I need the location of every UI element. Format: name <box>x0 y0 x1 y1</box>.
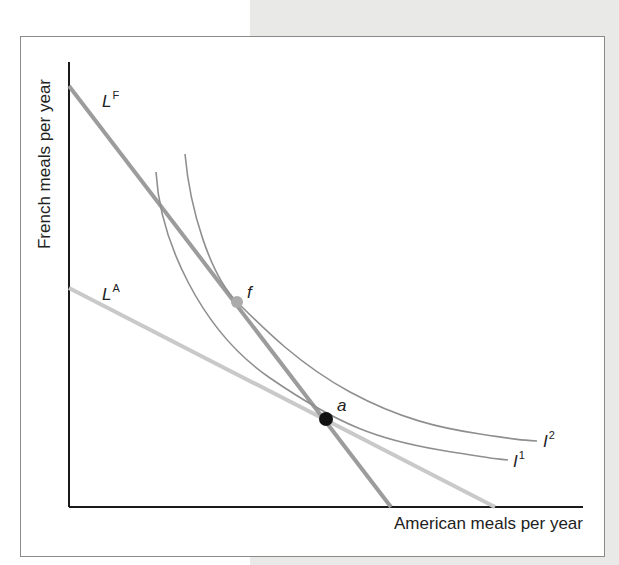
label-point-a: a <box>337 396 346 416</box>
label-i1-main: I <box>513 452 518 471</box>
point-a-marker <box>319 412 333 426</box>
budget-line-la <box>69 288 495 507</box>
x-axis-label: American meals per year <box>394 514 583 534</box>
label-i2-main: I <box>543 432 548 451</box>
label-lf-sup: F <box>112 89 119 101</box>
label-lf-main: L <box>102 92 111 111</box>
label-la: LA <box>102 285 120 305</box>
y-axis-label: French meals per year <box>35 79 55 249</box>
label-la-sup: A <box>112 282 119 294</box>
label-lf: LF <box>102 92 119 112</box>
label-la-main: L <box>102 285 111 304</box>
label-i2: I2 <box>543 432 555 452</box>
chart-canvas <box>0 0 619 565</box>
point-f-marker <box>231 296 243 308</box>
label-i1-sup: 1 <box>519 449 525 461</box>
label-point-f: f <box>247 283 252 303</box>
label-i1: I1 <box>513 452 525 472</box>
label-i2-sup: 2 <box>549 429 555 441</box>
